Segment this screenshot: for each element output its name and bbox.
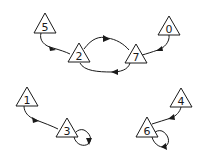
node-0-label: 0 <box>166 23 173 36</box>
node-5: 5 <box>34 13 56 34</box>
arrowhead-6-to-6 <box>161 143 167 150</box>
node-7-label: 7 <box>133 51 140 64</box>
node-6: 6 <box>136 117 158 138</box>
node-5-label: 5 <box>42 21 49 34</box>
node-0: 0 <box>158 16 180 36</box>
node-1-label: 1 <box>24 94 31 107</box>
arrowhead-3-to-3 <box>86 138 92 145</box>
edge-0-to-7 <box>142 35 169 55</box>
edge-4-to-6 <box>152 107 181 124</box>
node-1: 1 <box>16 87 38 107</box>
node-4-label: 4 <box>178 95 185 108</box>
arrowhead-0-to-7 <box>156 46 163 51</box>
node-2-label: 2 <box>76 50 83 63</box>
graph-canvas: 5 2 7 0 1 3 4 6 <box>0 0 209 162</box>
node-3-label: 3 <box>64 125 71 138</box>
arrowhead-1-to-3 <box>32 117 39 123</box>
node-3: 3 <box>56 118 78 138</box>
arrowhead-4-to-6 <box>168 114 175 120</box>
arrowhead-7-to-2 <box>111 69 118 75</box>
node-4: 4 <box>170 88 192 108</box>
edge-1-to-3 <box>24 106 58 129</box>
edge-7-to-2 <box>80 63 130 72</box>
node-7: 7 <box>125 44 147 64</box>
edge-5-to-2 <box>41 33 53 48</box>
node-6-label: 6 <box>144 125 151 138</box>
edge-5-to-2-tail <box>53 48 70 54</box>
arrowhead-2-to-7 <box>103 35 110 42</box>
